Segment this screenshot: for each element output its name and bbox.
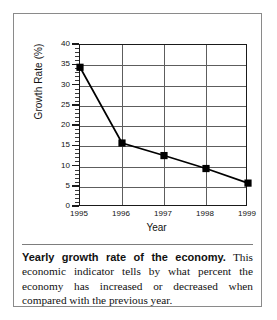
x-tick-label: 1997 [154, 210, 172, 218]
data-point-marker [118, 139, 125, 146]
y-tick-mark [72, 145, 79, 147]
caption-divider [22, 244, 253, 245]
caption-lead-in: Yearly growth rate of the economy. [22, 251, 226, 263]
y-tick-mark [72, 205, 79, 207]
chart-container: Growth Rate (%) 0510152025303540 1995199… [14, 14, 261, 242]
y-tick-label: 5 [66, 182, 70, 190]
y-tick-mark [72, 84, 79, 86]
y-tick-label: 30 [61, 81, 70, 89]
plot-area [79, 44, 247, 206]
data-point-marker [202, 165, 209, 172]
x-axis-label: Year [66, 222, 247, 233]
plot-wrapper: 0510152025303540 19951996199719981999 [66, 44, 247, 206]
x-tick-label: 1995 [70, 210, 88, 218]
data-series-line [80, 45, 248, 207]
y-axis-label: Growth Rate (%) [33, 12, 44, 152]
figure-frame: Growth Rate (%) 0510152025303540 1995199… [13, 13, 262, 307]
y-tick-label: 25 [61, 101, 70, 109]
y-tick-mark [72, 43, 79, 45]
y-tick-label: 40 [61, 40, 70, 48]
y-tick-mark [72, 104, 79, 106]
series-polyline [80, 67, 248, 183]
data-point-marker [76, 64, 83, 71]
data-point-marker [160, 152, 167, 159]
y-tick-label: 20 [61, 121, 70, 129]
y-tick-label: 15 [61, 141, 70, 149]
y-tick-mark [72, 185, 79, 187]
figure-caption: Yearly growth rate of the economy. This … [22, 250, 253, 308]
x-tick-label: 1998 [196, 210, 214, 218]
x-tick-label: 1999 [238, 210, 256, 218]
x-tick-label: 1996 [112, 210, 130, 218]
y-tick-label: 35 [61, 60, 70, 68]
y-tick-mark [72, 165, 79, 167]
y-tick-label: 10 [61, 162, 70, 170]
data-point-marker [244, 180, 251, 187]
y-tick-mark [72, 124, 79, 126]
